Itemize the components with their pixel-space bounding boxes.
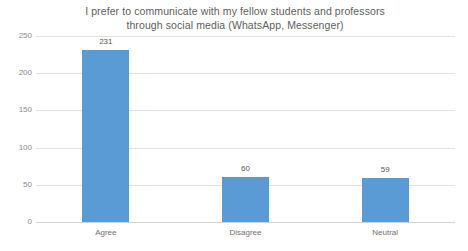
bar-disagree [222,177,269,222]
y-axis: 050100150200250 [0,36,32,222]
bar-agree [82,50,129,222]
chart-title-line-1: I prefer to communicate with my fellow s… [40,4,430,18]
y-axis-tick-label: 200 [0,69,32,77]
y-axis-tick-label: 50 [0,181,32,189]
x-axis-tick-label: Agree [36,228,176,237]
bar-chart: I prefer to communicate with my fellow s… [0,0,468,251]
bar-value-label: 231 [82,38,129,46]
x-axis-tick-label: Disagree [176,228,316,237]
y-axis-tick-label: 150 [0,106,32,114]
y-axis-tick-label: 0 [0,218,32,226]
gridline-0 [36,222,455,223]
x-axis-tick-label: Neutral [315,228,455,237]
plot-area: 2316059 [36,36,455,222]
bar-value-label: 59 [362,166,409,174]
x-axis: AgreeDisagreeNeutral [36,228,455,242]
chart-title-line-2: through social media (WhatsApp, Messenge… [40,18,430,32]
y-axis-tick-label: 100 [0,144,32,152]
chart-title: I prefer to communicate with my fellow s… [40,4,430,32]
bars-layer: 2316059 [36,36,455,222]
bar-neutral [362,178,409,222]
bar-value-label: 60 [222,165,269,173]
y-axis-tick-label: 250 [0,32,32,40]
